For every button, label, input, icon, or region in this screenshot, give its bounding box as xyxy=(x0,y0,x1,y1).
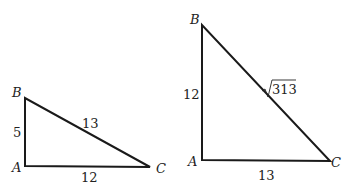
right-triangle-shape xyxy=(202,25,330,161)
right-vertex-c-label: C xyxy=(331,155,341,170)
left-side-ac-label: 12 xyxy=(81,170,98,185)
left-vertex-a-label: A xyxy=(11,160,21,175)
left-side-ab-label: 5 xyxy=(13,125,21,140)
right-vertex-a-label: A xyxy=(187,154,197,169)
left-triangle-shape xyxy=(25,98,150,167)
triangles-diagram: B A C 5 13 12 B A C 12 313 13 xyxy=(0,0,349,195)
right-side-ac-label: 13 xyxy=(258,168,275,183)
right-vertex-b-label: B xyxy=(189,12,200,27)
right-side-ab-label: 12 xyxy=(183,87,200,102)
right-side-bc-radical: 313 xyxy=(262,80,297,97)
left-side-bc-label: 13 xyxy=(82,116,99,131)
left-vertex-c-label: C xyxy=(156,161,166,176)
left-triangle: B A C 5 13 12 xyxy=(11,85,166,185)
right-side-bc-label: 313 xyxy=(272,82,297,97)
left-vertex-b-label: B xyxy=(11,85,22,100)
right-triangle: B A C 12 313 13 xyxy=(183,12,341,183)
